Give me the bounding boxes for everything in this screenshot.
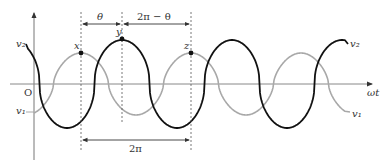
v2-label-left: v₂ [16,38,26,49]
v2-label-right: v₂ [350,38,360,49]
theta-label: θ [97,11,103,22]
origin-label: O [24,87,32,98]
two-pi-label: 2π [129,143,142,154]
point-x-label: x [74,40,80,51]
x-axis-label: ωt [367,87,380,98]
v1-label-left: v₁ [16,105,26,116]
two-pi-minus-theta-label: 2π − θ [137,11,171,22]
point-z-label: z [183,40,190,51]
v1-label-right: v₁ [352,108,362,119]
point-y [120,37,125,42]
point-x [79,51,84,56]
phase-diagram: θ 2π − θ 2π x y z v₂ v₁ v₂ v₁ O ωt [0,0,390,165]
point-y-label: y [115,26,122,37]
point-z [189,51,194,56]
